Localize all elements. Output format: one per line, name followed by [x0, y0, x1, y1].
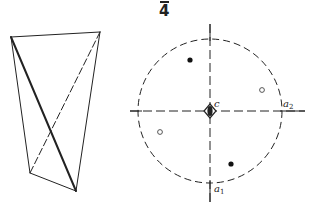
axis2-label: a2	[283, 99, 293, 111]
edge-bold-diagonal	[11, 37, 76, 191]
filled-pole-upper	[187, 57, 192, 62]
edge-top	[11, 32, 100, 37]
open-pole-right	[260, 88, 265, 93]
overline-bar	[160, 1, 169, 3]
title-digit: 4	[159, 0, 169, 19]
center-label-text: c	[214, 98, 220, 109]
stereogram	[130, 24, 305, 202]
open-pole-left	[158, 130, 163, 135]
tetrahedron	[11, 32, 100, 191]
filled-pole-lower	[228, 161, 233, 166]
axis1-label-sub: 1	[220, 188, 224, 196]
axis1-label: a1	[214, 184, 224, 196]
axis2-label-sub: 2	[289, 103, 293, 111]
diagram-canvas	[0, 0, 310, 207]
center-label: c	[214, 99, 220, 109]
point-group-title: 4	[159, 0, 169, 19]
